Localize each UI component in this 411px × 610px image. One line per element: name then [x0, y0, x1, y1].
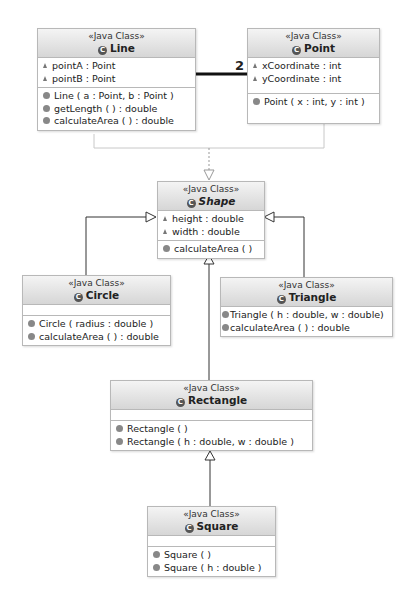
- class-shape[interactable]: «Java Class» CShape height : double widt…: [157, 181, 265, 259]
- stereotype: «Java Class»: [158, 184, 264, 195]
- class-c-icon: C: [176, 398, 185, 407]
- fields-section: pointA : Point pointB : Point: [38, 58, 195, 88]
- field-row[interactable]: pointA : Point: [38, 60, 195, 73]
- method-icon: [222, 324, 229, 331]
- class-header: «Java Class» CPoint: [248, 29, 379, 58]
- field-icon: [43, 76, 47, 81]
- method-icon: [28, 320, 35, 327]
- field-icon: [253, 76, 257, 81]
- class-name: Line: [110, 42, 135, 54]
- class-c-icon: C: [277, 295, 286, 304]
- class-c-icon: C: [292, 46, 301, 55]
- class-name: Circle: [86, 289, 119, 301]
- class-header: «Java Class» CCircle: [23, 276, 170, 305]
- method-row[interactable]: Square ( h : double ): [148, 562, 275, 575]
- method-row[interactable]: calculateArea ( ) : double: [38, 115, 195, 128]
- class-name: Shape: [199, 195, 236, 207]
- method-row[interactable]: calculateArea ( ): [158, 243, 264, 256]
- method-row[interactable]: getLength ( ) : double: [38, 103, 195, 116]
- methods-section: calculateArea ( ): [158, 241, 264, 258]
- class-name: Point: [304, 42, 335, 54]
- method-icon: [43, 117, 50, 124]
- method-icon: [28, 333, 35, 340]
- method-icon: [153, 564, 160, 571]
- field-row[interactable]: height : double: [158, 213, 264, 226]
- class-line[interactable]: «Java Class» CLine pointA : Point pointB…: [37, 28, 196, 131]
- method-icon: [222, 311, 229, 318]
- stereotype: «Java Class»: [23, 278, 170, 289]
- method-icon: [116, 438, 123, 445]
- class-header: «Java Class» CSquare: [148, 507, 275, 536]
- stereotype: «Java Class»: [111, 383, 312, 394]
- methods-section: Point ( x : int, y : int ): [248, 94, 379, 123]
- method-row[interactable]: calculateArea ( ) : double: [23, 331, 170, 344]
- method-icon: [253, 98, 260, 105]
- methods-section: Line ( a : Point, b : Point ) getLength …: [38, 88, 195, 130]
- field-icon: [163, 229, 167, 234]
- field-icon: [253, 63, 257, 68]
- fields-section: [148, 536, 275, 547]
- abstract-class-icon: C: [187, 199, 196, 208]
- class-name: Rectangle: [188, 394, 247, 406]
- class-c-icon: C: [185, 524, 194, 533]
- triangle-generalization: [273, 217, 304, 277]
- field-row[interactable]: yCoordinate : int: [248, 73, 379, 86]
- method-row[interactable]: Rectangle ( h : double, w : double ): [111, 436, 312, 449]
- method-row[interactable]: Line ( a : Point, b : Point ): [38, 90, 195, 103]
- method-row[interactable]: Point ( x : int, y : int ): [248, 96, 379, 109]
- class-header: «Java Class» CTriangle: [221, 278, 392, 307]
- methods-section: Rectangle ( ) Rectangle ( h : double, w …: [111, 421, 312, 450]
- method-icon: [43, 105, 50, 112]
- fields-section: [23, 305, 170, 316]
- field-icon: [163, 216, 167, 221]
- method-icon: [163, 245, 170, 252]
- association-multiplicity: 2: [235, 58, 244, 73]
- method-icon: [43, 92, 50, 99]
- stereotype: «Java Class»: [38, 31, 195, 42]
- class-triangle[interactable]: «Java Class» CTriangle Triangle ( h : do…: [220, 277, 393, 337]
- class-circle[interactable]: «Java Class» CCircle Circle ( radius : d…: [22, 275, 171, 346]
- field-icon: [43, 63, 47, 68]
- class-header: «Java Class» CRectangle: [111, 381, 312, 410]
- class-header: «Java Class» CLine: [38, 29, 195, 58]
- class-square[interactable]: «Java Class» CSquare Square ( ) Square (…: [147, 506, 276, 577]
- fields-section: xCoordinate : int yCoordinate : int: [248, 58, 379, 94]
- methods-section: Circle ( radius : double ) calculateArea…: [23, 316, 170, 345]
- dependency-arrow: [204, 170, 214, 180]
- class-rectangle[interactable]: «Java Class» CRectangle Rectangle ( ) Re…: [110, 380, 313, 451]
- triangle-inherit-arrow: [264, 212, 274, 222]
- field-row[interactable]: xCoordinate : int: [248, 60, 379, 73]
- field-row[interactable]: pointB : Point: [38, 73, 195, 86]
- square-inherit-arrow: [205, 451, 215, 460]
- fields-section: height : double width : double: [158, 211, 264, 241]
- method-icon: [116, 425, 123, 432]
- circle-generalization: [86, 217, 148, 275]
- circle-inherit-arrow: [146, 212, 156, 222]
- method-row[interactable]: Circle ( radius : double ): [23, 318, 170, 331]
- method-row[interactable]: calculateArea ( ) : double: [221, 322, 392, 335]
- class-c-icon: C: [74, 293, 83, 302]
- field-row[interactable]: width : double: [158, 226, 264, 239]
- method-icon: [153, 551, 160, 558]
- class-c-icon: C: [98, 46, 107, 55]
- stereotype: «Java Class»: [148, 509, 275, 520]
- method-row[interactable]: Triangle ( h : double, w : double): [221, 309, 392, 322]
- class-name: Square: [197, 520, 239, 532]
- methods-section: Triangle ( h : double, w : double) calcu…: [221, 307, 392, 336]
- stereotype: «Java Class»: [248, 31, 379, 42]
- class-header: «Java Class» CShape: [158, 182, 264, 211]
- fields-section: [111, 410, 312, 421]
- method-row[interactable]: Square ( ): [148, 549, 275, 562]
- methods-section: Square ( ) Square ( h : double ): [148, 547, 275, 576]
- stereotype: «Java Class»: [221, 280, 392, 291]
- class-name: Triangle: [289, 291, 337, 303]
- method-row[interactable]: Rectangle ( ): [111, 423, 312, 436]
- class-point[interactable]: «Java Class» CPoint xCoordinate : int yC…: [247, 28, 380, 124]
